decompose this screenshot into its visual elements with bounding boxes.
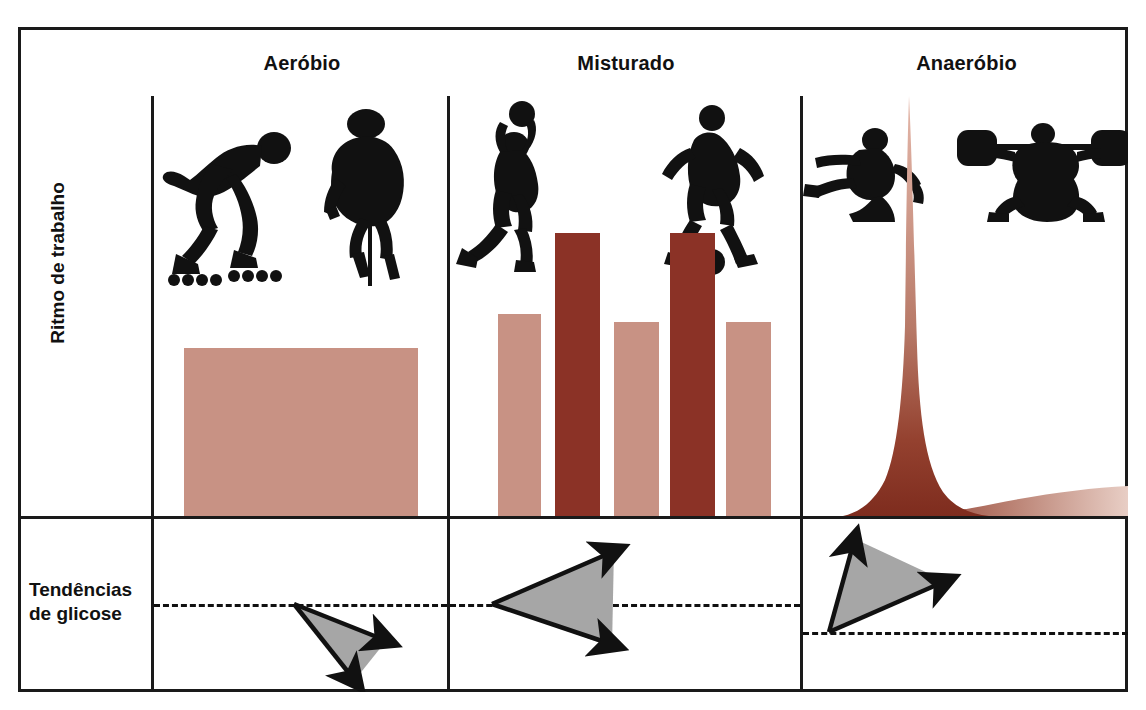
athlete-group-mixed (450, 96, 800, 276)
work-rate-panel-aerobic (154, 96, 447, 516)
column-header-mixed: Misturado (450, 52, 802, 75)
work-rate-bar-4 (670, 233, 715, 516)
column-header-row: Aeróbio Misturado Anaeróbio (21, 30, 1125, 96)
row-label-work-rate: Ritmo de trabalho (47, 148, 69, 378)
glucose-panel-aerobic (154, 519, 447, 692)
chart-frame: Aeróbio Misturado Anaeróbio Ritmo de tra… (18, 27, 1128, 692)
glucose-arrow-cone-anaerobic (803, 519, 1128, 692)
basketball-player-icon (456, 101, 538, 272)
work-rate-bar-5 (726, 322, 771, 516)
glucose-panel-mixed (450, 519, 800, 692)
work-rate-bar-1 (498, 314, 541, 516)
athlete-group-aerobic (154, 106, 447, 296)
work-rate-spike-anaerobic (803, 96, 1128, 516)
row-label-glucose-line2: de glicose (29, 602, 149, 626)
glucose-arrow-cone-mixed (450, 519, 800, 692)
work-rate-bar-3 (614, 322, 659, 516)
figure-root: Aeróbio Misturado Anaeróbio Ritmo de tra… (0, 0, 1146, 710)
work-rate-block-aerobic (184, 348, 418, 516)
column-header-aerobic: Aeróbio (154, 52, 450, 75)
work-rate-bar-2 (555, 233, 600, 516)
inline-skater-icon (163, 132, 291, 286)
row-label-glucose-line1: Tendências (29, 578, 149, 602)
glucose-arrow-cone-aerobic (154, 519, 447, 692)
glucose-panel-anaerobic (803, 519, 1128, 692)
column-header-anaerobic: Anaeróbio (802, 52, 1131, 75)
cyclist-icon (324, 109, 404, 286)
row-label-glucose-trends: Tendências de glicose (29, 578, 149, 626)
work-rate-panel-anaerobic (803, 96, 1128, 516)
work-rate-panel-mixed (450, 96, 800, 516)
